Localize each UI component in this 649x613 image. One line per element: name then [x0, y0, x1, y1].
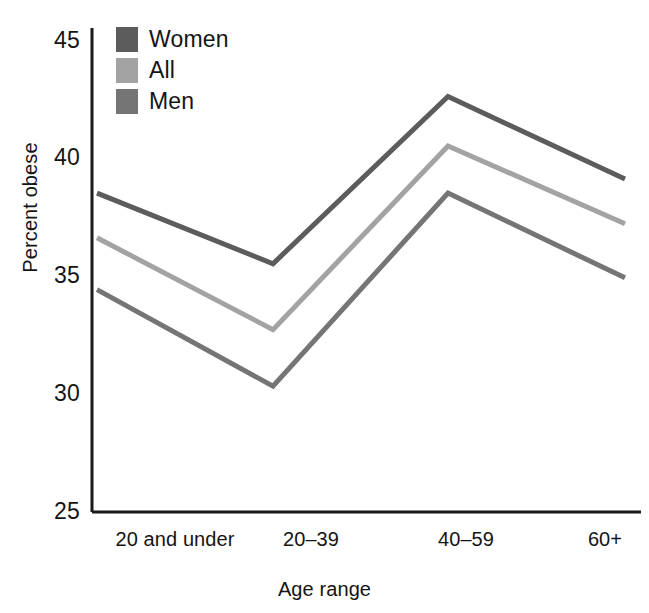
legend-label-women: Women: [149, 28, 229, 51]
legend-label-men: Men: [149, 90, 194, 113]
legend: Women All Men: [116, 24, 229, 117]
y-tick-25: 25: [22, 498, 80, 525]
y-tick-30: 30: [22, 380, 80, 407]
y-tick-45: 45: [22, 27, 80, 54]
legend-item-men: Men: [116, 86, 229, 117]
legend-item-women: Women: [116, 24, 229, 55]
y-tick-40: 40: [22, 144, 80, 171]
x-tick-20-and-under: 20 and under: [115, 528, 234, 551]
x-tick-60-plus: 60+: [588, 528, 622, 551]
line-chart: Percent obese 45 40 35 30 25 20 and unde…: [0, 0, 649, 613]
axis-spines: [0, 0, 649, 613]
legend-swatch-men: [116, 89, 138, 114]
y-tick-labels: 45 40 35 30 25: [18, 0, 80, 613]
legend-swatch-all: [116, 58, 138, 83]
legend-label-all: All: [149, 59, 175, 82]
x-axis-label: Age range: [0, 578, 649, 601]
x-tick-40-59: 40–59: [438, 528, 494, 551]
legend-item-all: All: [116, 55, 229, 86]
y-tick-35: 35: [22, 262, 80, 289]
legend-swatch-women: [116, 27, 138, 52]
x-tick-20-39: 20–39: [283, 528, 339, 551]
